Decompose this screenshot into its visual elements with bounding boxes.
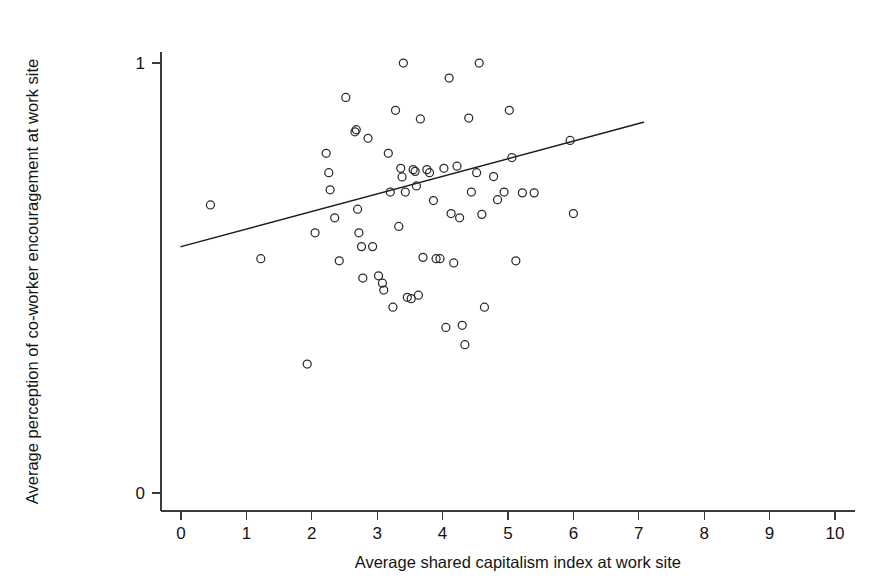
data-points-group	[206, 59, 577, 368]
data-point	[206, 201, 214, 209]
axis-labels-group: Average shared capitalism index at work …	[23, 59, 681, 571]
y-tick-label: 1	[136, 54, 145, 73]
x-axis-title: Average shared capitalism index at work …	[355, 553, 681, 571]
data-point	[326, 186, 334, 194]
data-point	[453, 162, 461, 170]
scatter-plot-figure: 01012345678910 Average shared capitalism…	[0, 0, 881, 581]
data-point	[530, 189, 538, 197]
data-point	[461, 341, 469, 349]
x-tick-label: 9	[765, 524, 774, 543]
data-point	[419, 253, 427, 261]
data-point	[352, 126, 360, 134]
data-point	[257, 255, 265, 263]
data-point	[467, 188, 475, 196]
data-point	[399, 59, 407, 67]
data-point	[389, 303, 397, 311]
data-point	[359, 274, 367, 282]
data-point	[447, 210, 455, 218]
data-point	[518, 189, 526, 197]
data-point	[331, 214, 339, 222]
data-point	[392, 106, 400, 114]
x-tick-label: 5	[503, 524, 512, 543]
x-tick-label: 1	[242, 524, 251, 543]
data-point	[401, 188, 409, 196]
data-point	[375, 272, 383, 280]
data-point	[494, 196, 502, 204]
data-point	[566, 136, 574, 144]
data-point	[475, 59, 483, 67]
data-point	[311, 229, 319, 237]
data-point	[303, 360, 311, 368]
data-point	[386, 188, 394, 196]
data-point	[398, 173, 406, 181]
data-point	[473, 169, 481, 177]
data-point	[411, 167, 419, 175]
data-point	[442, 323, 450, 331]
data-point	[465, 114, 473, 122]
data-point	[445, 74, 453, 82]
x-tick-label: 10	[826, 524, 845, 543]
y-tick-label: 0	[136, 484, 145, 503]
data-point	[512, 257, 520, 265]
data-point	[325, 169, 333, 177]
data-point	[490, 173, 498, 181]
data-point	[480, 303, 488, 311]
y-axis-title: Average perception of co-worker encourag…	[23, 59, 41, 504]
chart-canvas: 01012345678910 Average shared capitalism…	[0, 0, 881, 581]
data-point	[414, 291, 422, 299]
data-point	[456, 214, 464, 222]
data-point	[478, 210, 486, 218]
data-point	[397, 164, 405, 172]
data-point	[358, 243, 366, 251]
x-tick-label: 4	[438, 524, 447, 543]
data-point	[450, 259, 458, 267]
data-point	[335, 257, 343, 265]
data-point	[440, 164, 448, 172]
x-tick-label: 0	[176, 524, 185, 543]
data-point	[458, 321, 466, 329]
x-tick-label: 7	[634, 524, 643, 543]
data-point	[429, 197, 437, 205]
data-point	[505, 106, 513, 114]
x-tick-label: 3	[372, 524, 381, 543]
data-point	[322, 149, 330, 157]
data-point	[416, 115, 424, 123]
data-point	[384, 149, 392, 157]
data-point	[500, 188, 508, 196]
data-point	[369, 243, 377, 251]
x-tick-label: 8	[699, 524, 708, 543]
x-tick-label: 2	[307, 524, 316, 543]
data-point	[569, 210, 577, 218]
x-tick-label: 6	[569, 524, 578, 543]
data-point	[355, 229, 363, 237]
data-point	[395, 222, 403, 230]
axes-group: 01012345678910	[136, 52, 855, 543]
data-point	[364, 134, 372, 142]
data-point	[342, 93, 350, 101]
data-point	[354, 205, 362, 213]
